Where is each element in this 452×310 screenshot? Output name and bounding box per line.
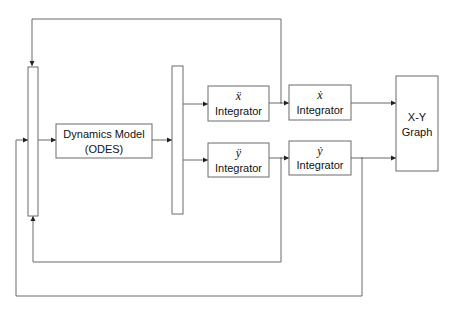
xy-graph-sublabel: Graph xyxy=(402,126,433,138)
ydot-integrator-label: Integrator xyxy=(296,159,343,171)
dynamics-model-label: Dynamics Model xyxy=(63,128,144,140)
ydot-symbol: ẏ xyxy=(316,144,323,158)
xy-graph-block[interactable]: X-Y Graph xyxy=(396,76,438,171)
yddot-integrator-block[interactable]: ÿ Integrator xyxy=(208,143,269,177)
xdot-symbol: ẋ xyxy=(316,88,323,102)
xdot-integrator-block[interactable]: ẋ Integrator xyxy=(289,85,351,120)
mux-bar[interactable] xyxy=(28,67,38,216)
junction-xddot xyxy=(280,102,282,104)
xddot-integrator-label: Integrator xyxy=(215,105,262,117)
xdot-integrator-label: Integrator xyxy=(296,104,343,116)
block-diagram: Dynamics Model (ODES) ẍ Integrator ÿ Int… xyxy=(0,0,452,310)
demux-bar[interactable] xyxy=(172,66,183,214)
xy-graph-label: X-Y xyxy=(408,111,427,123)
dynamics-model-block[interactable]: Dynamics Model (ODES) xyxy=(56,124,152,158)
yddot-integrator-label: Integrator xyxy=(215,162,262,174)
xddot-symbol: ẍ xyxy=(235,89,242,103)
dynamics-model-sublabel: (ODES) xyxy=(85,143,124,155)
yddot-symbol: ÿ xyxy=(235,146,242,160)
junction-yddot xyxy=(280,157,282,159)
xddot-integrator-block[interactable]: ẍ Integrator xyxy=(208,86,269,121)
ydot-integrator-block[interactable]: ẏ Integrator xyxy=(289,141,351,175)
junction-ydot xyxy=(361,157,363,159)
